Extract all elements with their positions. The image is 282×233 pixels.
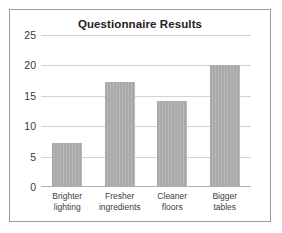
gridline-25 <box>41 35 251 36</box>
x-axis-category-label: Bigger tables <box>194 191 256 213</box>
y-axis-tick-label: 15 <box>24 90 36 102</box>
plot-area: 0510152025Brighter lightingFresher ingre… <box>41 35 251 187</box>
y-axis-tick-label: 20 <box>24 59 36 71</box>
chart-title: Questionnaire Results <box>10 18 270 30</box>
y-axis-tick-label: 25 <box>24 29 36 41</box>
x-axis-category-label-line: Cleaner <box>157 191 187 201</box>
y-axis-tick-label: 0 <box>30 181 36 193</box>
y-axis-tick-label: 10 <box>24 120 36 132</box>
x-axis-category-label-line: Fresher <box>105 191 134 201</box>
chart-card: Questionnaire Results 0510152025Brighter… <box>9 9 271 222</box>
x-axis-category-label-line: tables <box>194 202 256 213</box>
bar[interactable] <box>52 143 82 187</box>
y-axis-tick-label: 5 <box>30 151 36 163</box>
x-axis-category-label-line: Brighter <box>52 191 82 201</box>
bar[interactable] <box>157 101 187 187</box>
x-axis-category-label-line: Bigger <box>212 191 237 201</box>
bar[interactable] <box>210 65 240 187</box>
bar[interactable] <box>105 82 135 187</box>
